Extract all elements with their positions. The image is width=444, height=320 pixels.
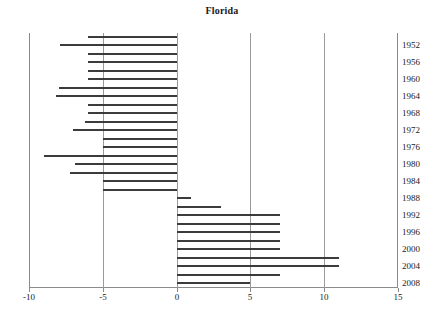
bar-2006 bbox=[177, 274, 280, 276]
chart-title: Florida bbox=[0, 5, 444, 16]
bar-1964 bbox=[56, 95, 177, 97]
y-axis-label-1960: 1960 bbox=[402, 75, 420, 84]
bar-1990 bbox=[177, 206, 221, 208]
bar-1994 bbox=[177, 223, 280, 225]
bar-1954 bbox=[88, 53, 177, 55]
axis-bottom-border bbox=[29, 287, 398, 288]
bar-1962 bbox=[59, 87, 177, 89]
x-tick-label--5: -5 bbox=[83, 292, 123, 302]
x-tick-label-10: 10 bbox=[304, 292, 344, 302]
y-axis-year-labels: 1952195619601964196819721976198019841988… bbox=[402, 33, 444, 295]
bar-1978 bbox=[44, 155, 177, 157]
y-axis-label-1952: 1952 bbox=[402, 41, 420, 50]
bar-1968 bbox=[88, 112, 177, 114]
bar-2002 bbox=[177, 257, 339, 259]
y-axis-label-1964: 1964 bbox=[402, 92, 420, 101]
y-axis-label-1984: 1984 bbox=[402, 177, 420, 186]
bar-1950 bbox=[88, 36, 177, 38]
bar-2000 bbox=[177, 248, 280, 250]
bar-1956 bbox=[88, 61, 177, 63]
axis-right-border bbox=[397, 33, 398, 288]
bar-1980 bbox=[75, 163, 177, 165]
bar-1960 bbox=[88, 78, 177, 80]
bar-1970 bbox=[85, 121, 177, 123]
bar-1958 bbox=[88, 70, 177, 72]
bar-1988 bbox=[177, 197, 192, 199]
x-tick-label-0: 0 bbox=[157, 292, 197, 302]
y-axis-label-1956: 1956 bbox=[402, 58, 420, 67]
bar-1984 bbox=[103, 180, 177, 182]
y-axis-label-2004: 2004 bbox=[402, 262, 420, 271]
y-axis-label-1972: 1972 bbox=[402, 126, 420, 135]
bar-1972 bbox=[73, 129, 176, 131]
bar-1966 bbox=[88, 104, 177, 106]
gridline-x-10 bbox=[324, 33, 325, 288]
x-tick-label--10: -10 bbox=[9, 292, 49, 302]
y-axis-label-2000: 2000 bbox=[402, 245, 420, 254]
y-axis-label-1980: 1980 bbox=[402, 160, 420, 169]
y-axis-label-1988: 1988 bbox=[402, 194, 420, 203]
plot-area bbox=[29, 33, 398, 288]
bar-1976 bbox=[103, 146, 177, 148]
bar-1998 bbox=[177, 240, 280, 242]
bar-2008 bbox=[177, 282, 251, 284]
bar-1986 bbox=[103, 189, 177, 191]
y-axis-label-1996: 1996 bbox=[402, 228, 420, 237]
bar-1992 bbox=[177, 214, 280, 216]
bar-2004 bbox=[177, 265, 339, 267]
bar-1974 bbox=[103, 138, 177, 140]
bar-1996 bbox=[177, 231, 280, 233]
axis-left-border bbox=[29, 33, 30, 288]
y-axis-label-1992: 1992 bbox=[402, 211, 420, 220]
y-axis-label-1976: 1976 bbox=[402, 143, 420, 152]
x-tick-label-5: 5 bbox=[230, 292, 270, 302]
chart-container: Florida -10-5051015 19521956196019641968… bbox=[0, 0, 444, 320]
y-axis-label-2008: 2008 bbox=[402, 279, 420, 288]
bar-1952 bbox=[60, 44, 177, 46]
y-axis-label-1968: 1968 bbox=[402, 109, 420, 118]
bar-1982 bbox=[70, 172, 176, 174]
